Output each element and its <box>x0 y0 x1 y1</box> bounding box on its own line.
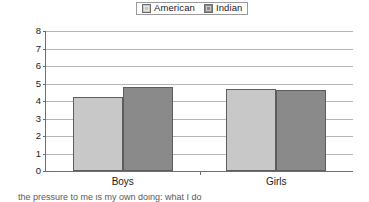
legend-entry-american: American <box>142 3 195 13</box>
bar-boys-american <box>73 97 123 171</box>
y-axis-tick-label: 5 <box>21 79 41 89</box>
y-axis-tick-mark <box>43 154 46 155</box>
y-axis-tick-mark <box>43 101 46 102</box>
y-axis-tick-mark <box>43 119 46 120</box>
y-axis-tick-label: 8 <box>21 26 41 36</box>
y-axis-tick-mark <box>43 49 46 50</box>
legend-label-american: American <box>154 3 195 13</box>
y-axis-tick-label: 2 <box>21 131 41 141</box>
x-axis-tick-mark <box>200 171 201 175</box>
gridline <box>46 49 353 50</box>
y-axis-tick-label: 6 <box>21 61 41 71</box>
y-axis-tick-mark <box>43 31 46 32</box>
gridline <box>46 84 353 85</box>
x-axis-tick-label: Girls <box>236 176 316 187</box>
y-axis-tick-mark <box>43 171 46 172</box>
bar-girls-american <box>226 89 276 171</box>
clipped-caption-text: the pressure to me is my own doing: what… <box>18 194 358 202</box>
y-axis-tick-label: 3 <box>21 114 41 124</box>
legend-entry-indian: Indian <box>204 3 242 13</box>
chart-legend: American Indian <box>136 2 248 15</box>
y-axis-tick-mark <box>43 136 46 137</box>
gridline <box>46 66 353 67</box>
clipped-caption-fragment: the pressure to me is my own doing: what… <box>18 194 358 202</box>
bar-boys-indian <box>123 87 173 171</box>
plot-area: 012345678 BoysGirls <box>45 31 352 171</box>
y-axis-tick-mark <box>43 84 46 85</box>
gridline <box>46 31 353 32</box>
legend-label-indian: Indian <box>216 3 242 13</box>
y-axis-tick-label: 4 <box>21 96 41 106</box>
y-axis-tick-mark <box>43 66 46 67</box>
legend-swatch-indian-icon <box>204 4 213 13</box>
bar-girls-indian <box>276 90 326 171</box>
y-axis-tick-label: 7 <box>21 44 41 54</box>
legend-swatch-american-icon <box>142 4 151 13</box>
x-axis-tick-label: Boys <box>83 176 163 187</box>
y-axis-tick-label: 1 <box>21 149 41 159</box>
bar-chart-figure: American Indian 012345678 BoysGirls the … <box>0 0 369 202</box>
y-axis-tick-label: 0 <box>21 166 41 176</box>
